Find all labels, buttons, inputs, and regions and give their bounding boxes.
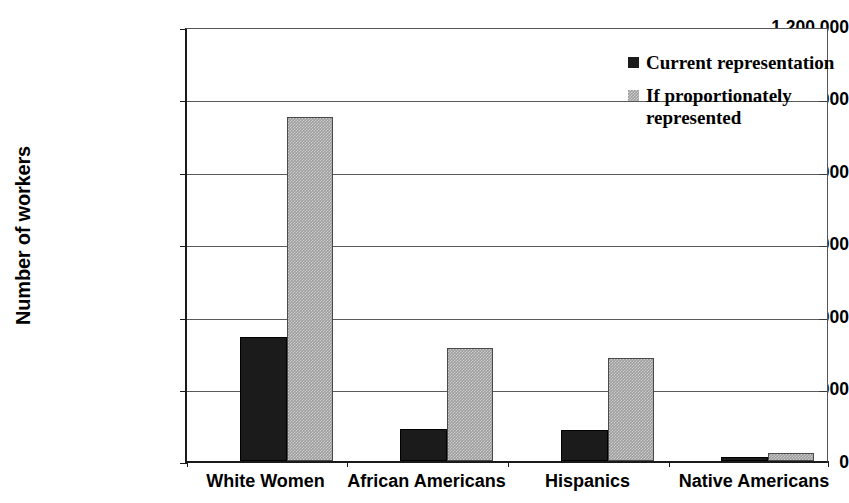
bar-native-americans-current — [721, 457, 768, 461]
y-tick-mark-right-200000 — [819, 391, 827, 392]
bar-white-women-proportional — [287, 117, 333, 461]
y-axis-title-text: Number of workers — [12, 146, 35, 325]
y-tick-mark-1000000 — [180, 101, 187, 102]
chart-legend: Current representation If proportionatel… — [628, 52, 843, 140]
x-tick-mark-1 — [347, 461, 348, 467]
y-tick-mark-1200000 — [180, 29, 187, 30]
bar-african-americans-current — [400, 429, 447, 461]
legend-label-current-representation: Current representation — [646, 52, 834, 73]
x-tick-mark-2 — [508, 461, 509, 467]
bar-white-women-current — [240, 337, 287, 461]
gridline-600000 — [187, 246, 827, 247]
y-tick-mark-right-400000 — [819, 319, 827, 320]
bar-native-americans-proportional — [768, 453, 814, 461]
x-tick-mark-3 — [669, 461, 670, 467]
y-tick-mark-200000 — [180, 391, 187, 392]
bar-african-americans-proportional — [447, 348, 493, 461]
y-axis-title: Number of workers — [0, 0, 46, 470]
y-tick-mark-right-600000 — [819, 246, 827, 247]
gridline-800000 — [187, 174, 827, 175]
y-tick-mark-0 — [180, 463, 187, 464]
gray-hatched-square-icon — [628, 90, 639, 101]
black-square-icon — [628, 57, 639, 68]
bar-hispanics-current — [561, 430, 608, 461]
bar-hispanics-proportional — [608, 358, 654, 461]
x-tick-mark-4 — [828, 461, 829, 467]
y-tick-mark-800000 — [180, 174, 187, 175]
x-tick-label-white-women: White Women — [185, 472, 346, 490]
x-tick-label-african-americans: African Americans — [346, 472, 507, 490]
x-tick-label-hispanics: Hispanics — [507, 472, 668, 490]
legend-entry-proportional-representation: If proportionately represented — [628, 85, 843, 128]
y-tick-mark-400000 — [180, 319, 187, 320]
y-tick-mark-right-800000 — [819, 174, 827, 175]
y-tick-mark-600000 — [180, 246, 187, 247]
bar-chart: Number of workers 1,200,000 1,000,000 80… — [0, 0, 849, 503]
legend-entry-current-representation: Current representation — [628, 52, 843, 73]
gridline-400000 — [187, 319, 827, 320]
legend-label-proportional-representation: If proportionately represented — [646, 85, 843, 128]
x-tick-label-native-americans: Native Americans — [668, 472, 840, 490]
x-tick-mark-0 — [187, 461, 188, 467]
